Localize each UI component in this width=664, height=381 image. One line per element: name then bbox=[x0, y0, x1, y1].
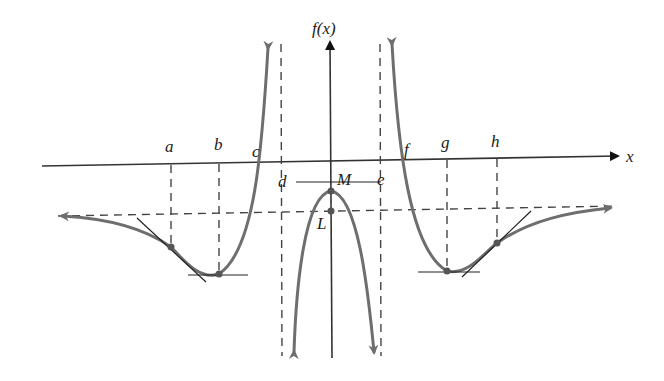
label-c: c bbox=[252, 142, 260, 161]
label-g: g bbox=[441, 133, 450, 152]
label-h: h bbox=[491, 132, 500, 151]
point-a bbox=[168, 244, 175, 251]
label-M: M bbox=[336, 170, 352, 189]
vertical-asymptote-right bbox=[380, 44, 381, 356]
horizontal-asymptote bbox=[58, 206, 618, 216]
label-a: a bbox=[165, 137, 174, 156]
x-axis-label: x bbox=[625, 147, 634, 166]
label-e: e bbox=[377, 170, 385, 189]
point-M bbox=[328, 188, 335, 195]
vertical-asymptote-left bbox=[281, 44, 282, 356]
function-graph: f(x) x a b c d e f g h M L bbox=[0, 0, 664, 381]
point-L bbox=[328, 208, 335, 215]
label-L: L bbox=[316, 214, 326, 233]
point-b bbox=[216, 271, 223, 278]
point-g bbox=[444, 268, 451, 275]
point-h bbox=[494, 240, 501, 247]
curve-left-branch bbox=[62, 48, 268, 275]
y-axis-label: f(x) bbox=[312, 19, 336, 38]
curve-middle-branch bbox=[294, 191, 374, 352]
label-f: f bbox=[404, 140, 411, 159]
label-d: d bbox=[278, 172, 287, 191]
label-b: b bbox=[214, 135, 223, 154]
y-axis bbox=[330, 42, 332, 358]
